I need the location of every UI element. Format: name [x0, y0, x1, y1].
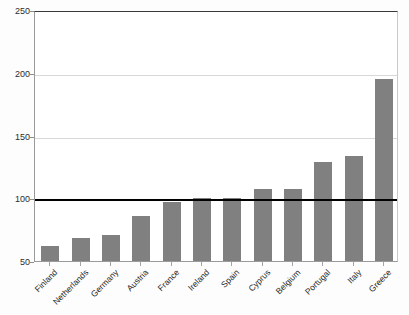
x-tick-mark-belgium [292, 262, 293, 266]
y-tick-mark-50 [29, 262, 34, 263]
x-label-text: Ireland [186, 268, 210, 292]
bar-chart: 50100150200250 FinlandNetherlandsGermany… [0, 0, 409, 315]
x-label-text: Greece [367, 268, 393, 294]
bar-portugal [314, 162, 332, 261]
x-tick-mark-austria [140, 262, 141, 266]
bar-austria [132, 216, 150, 261]
bar-greece [375, 79, 393, 261]
y-tick-label-100: 100 [0, 195, 30, 204]
x-label-text: Cyprus [246, 268, 271, 293]
x-tick-mark-cyprus [262, 262, 263, 266]
gridline-150 [35, 138, 397, 139]
bar-netherlands [72, 238, 90, 261]
x-label-text: France [156, 268, 181, 293]
x-label-text: Portugal [304, 268, 332, 296]
x-label-text: Italy [345, 268, 362, 285]
x-tick-mark-ireland [201, 262, 202, 266]
x-label-text: Belgium [274, 268, 302, 296]
y-tick-label-50: 50 [0, 258, 30, 267]
gridline-200 [35, 75, 397, 76]
bar-spain [223, 198, 241, 261]
reference-line-100 [35, 199, 397, 201]
x-label-text: Finland [33, 268, 59, 294]
x-tick-mark-netherlands [80, 262, 81, 266]
x-tick-mark-germany [110, 262, 111, 266]
x-tick-mark-italy [353, 262, 354, 266]
x-label-text: Spain [220, 268, 241, 289]
x-tick-mark-spain [231, 262, 232, 266]
y-tick-label-250: 250 [0, 7, 30, 16]
bar-france [163, 202, 181, 261]
x-tick-mark-finland [49, 262, 50, 266]
x-tick-mark-france [171, 262, 172, 266]
bar-ireland [193, 198, 211, 261]
plot-area [34, 11, 398, 262]
x-tick-mark-portugal [322, 262, 323, 266]
x-label-text: Austria [125, 268, 150, 293]
bar-germany [102, 235, 120, 261]
y-tick-label-150: 150 [0, 132, 30, 141]
x-tick-mark-greece [383, 262, 384, 266]
y-tick-label-200: 200 [0, 69, 30, 78]
bar-italy [345, 156, 363, 261]
x-label-text: Germany [89, 268, 120, 299]
bar-finland [41, 246, 59, 261]
